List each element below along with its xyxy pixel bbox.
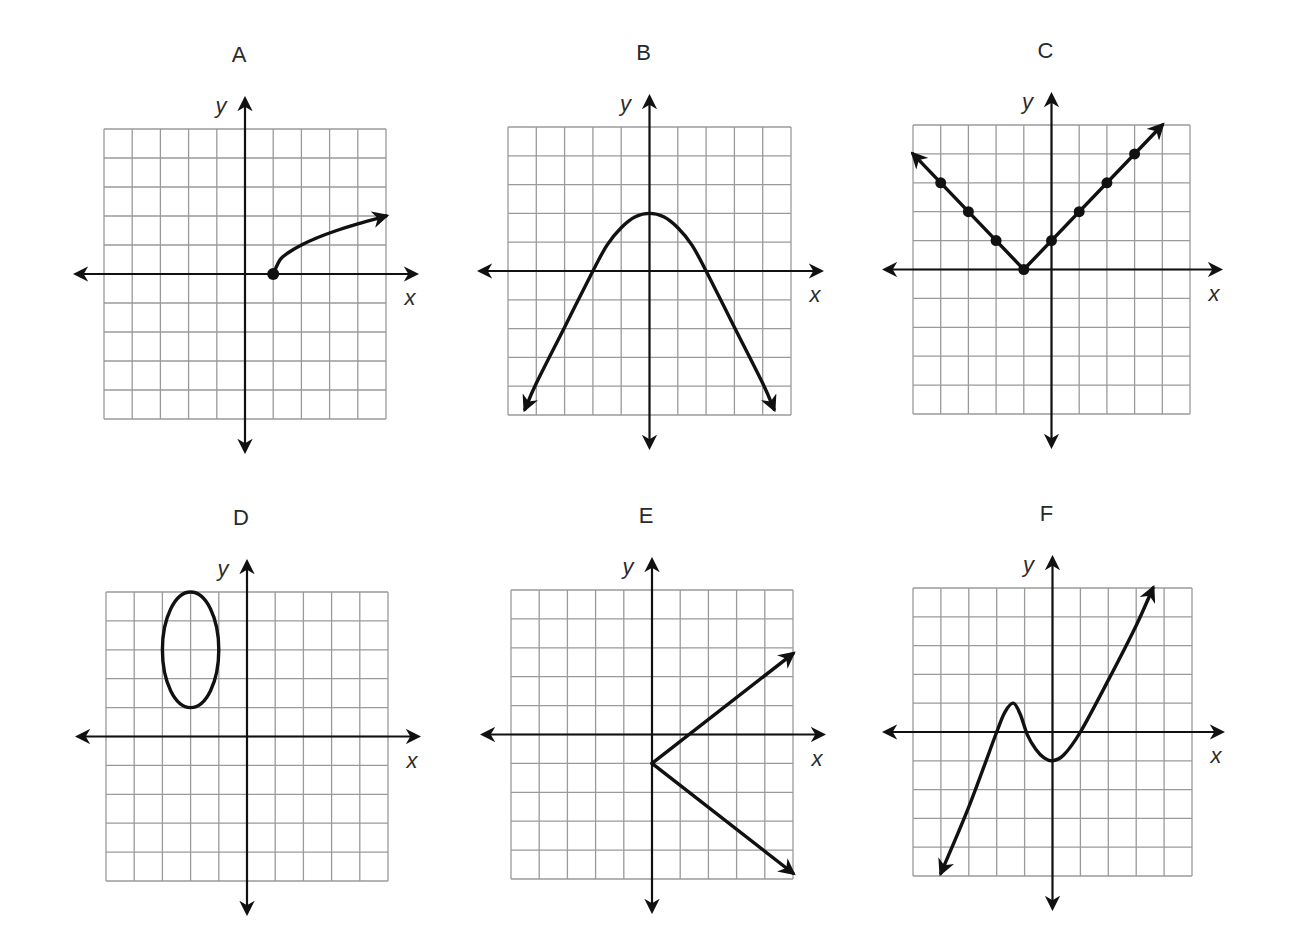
panel-title: A <box>232 42 247 67</box>
y-axis-label: y <box>1020 89 1035 114</box>
panel-title: B <box>636 40 651 65</box>
y-axis-label: y <box>621 554 636 579</box>
graph-panel-d: Dxy <box>78 505 419 913</box>
panel-title: D <box>233 505 249 530</box>
x-axis-label: x <box>811 746 824 771</box>
y-axis-label: y <box>618 91 633 116</box>
x-axis-label: x <box>809 282 822 307</box>
y-axis-label: y <box>216 556 231 581</box>
plotted-point <box>1129 148 1140 159</box>
graph-panel-e: Exy <box>483 503 824 911</box>
graph-panel-f: Fxy <box>885 501 1223 908</box>
plotted-point <box>991 235 1002 246</box>
panel-title: C <box>1038 38 1054 63</box>
plotted-point <box>935 177 946 188</box>
plotted-point <box>1074 206 1085 217</box>
x-axis-label: x <box>404 285 417 310</box>
graph-curve <box>941 588 1153 873</box>
graph-curve <box>652 763 793 873</box>
graph-curve <box>652 654 793 764</box>
x-axis-label: x <box>1208 281 1221 306</box>
graph-panel-b: Bxy <box>480 40 822 447</box>
x-axis-label: x <box>1210 743 1223 768</box>
graph-curve <box>913 125 1162 270</box>
plotted-point <box>963 206 974 217</box>
graph-panel-a: Axy <box>76 42 417 451</box>
closed-point <box>267 268 279 280</box>
graph-sheet: AxyBxyCxyDxyExyFxy A B C D E F <box>0 0 1294 935</box>
y-axis-label: y <box>1021 552 1036 577</box>
y-axis-label: y <box>214 93 229 118</box>
x-axis-label: x <box>406 748 419 773</box>
panel-title: F <box>1040 501 1053 526</box>
plotted-point <box>1046 235 1057 246</box>
plotted-point <box>1018 264 1029 275</box>
panel-title: E <box>639 503 654 528</box>
plotted-point <box>1101 177 1112 188</box>
graph-panel-c: Cxy <box>885 38 1221 446</box>
